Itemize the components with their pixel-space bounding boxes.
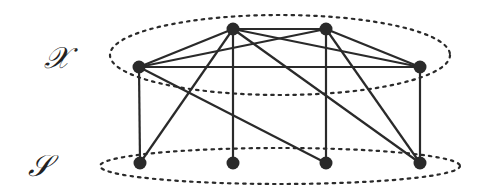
- node-s4: [414, 157, 427, 170]
- edge-x2-s1: [140, 29, 233, 163]
- node-x1: [133, 61, 146, 74]
- top-set-ellipse: [110, 15, 450, 95]
- node-s2: [227, 157, 240, 170]
- edge-x1-s1: [139, 67, 140, 163]
- node-s3: [320, 157, 333, 170]
- node-x2: [227, 23, 240, 36]
- node-x3: [320, 23, 333, 36]
- node-s1: [134, 157, 147, 170]
- node-x4: [414, 61, 427, 74]
- bipartite-graph-diagram: [0, 0, 483, 195]
